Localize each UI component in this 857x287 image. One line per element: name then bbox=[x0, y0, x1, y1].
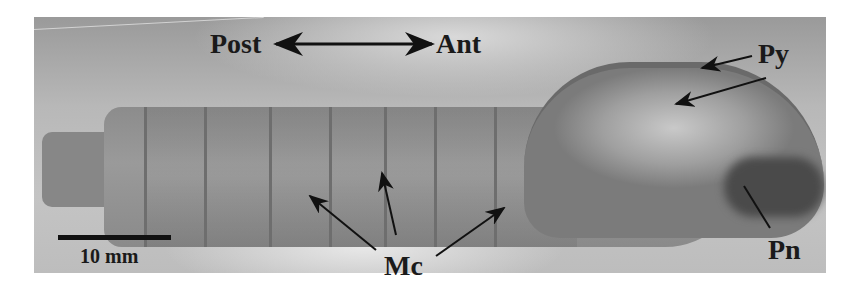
posterior-label: Post bbox=[210, 30, 261, 58]
pn-pointer bbox=[744, 186, 770, 228]
mc-arrow-left bbox=[310, 196, 376, 250]
py-arrow-upper bbox=[702, 56, 752, 68]
mc-arrow-middle bbox=[382, 173, 396, 235]
mc-arrow-right bbox=[436, 208, 504, 256]
py-arrow-lower bbox=[676, 78, 766, 104]
anterior-label: Ant bbox=[436, 30, 481, 58]
scale-bar bbox=[58, 235, 171, 240]
pn-label: Pn bbox=[768, 236, 801, 264]
scale-bar-label: 10 mm bbox=[80, 246, 138, 266]
mc-label: Mc bbox=[384, 252, 423, 280]
py-label: Py bbox=[758, 40, 789, 68]
annotation-arrows bbox=[0, 0, 857, 287]
